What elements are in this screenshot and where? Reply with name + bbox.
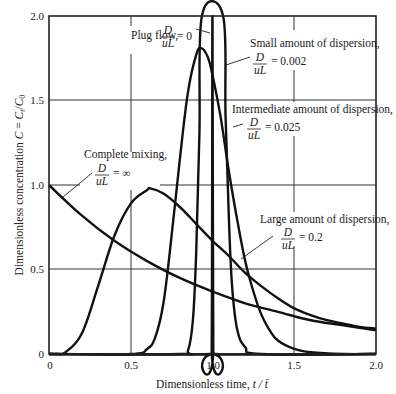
x-tick: 1.5 — [287, 359, 301, 371]
svg-text:Small amount of dispersion,: Small amount of dispersion, — [250, 37, 380, 50]
y-tick: 1.5 — [30, 94, 44, 106]
x-tick: 1.0 — [206, 359, 220, 371]
svg-text:Intermediate amount of dispers: Intermediate amount of dispersion, — [232, 103, 393, 116]
svg-text:uL: uL — [96, 175, 108, 187]
svg-text:D: D — [249, 116, 259, 128]
svg-text:uL: uL — [282, 239, 294, 251]
x-axis: 0 0.5 1.0 1.5 2.0 Dimensionless time, t … — [47, 359, 383, 391]
svg-text:= 0.2: = 0.2 — [299, 231, 323, 243]
dispersion-chart: 0 0.5 1.0 1.5 2.0 Dimensionless concentr… — [0, 0, 396, 394]
x-tick: 0.5 — [124, 359, 138, 371]
x-axis-title: Dimensionless time, t / t̄ — [156, 378, 269, 391]
x-tick: 2.0 — [369, 359, 383, 371]
svg-text:D: D — [255, 51, 265, 63]
svg-text:D: D — [283, 226, 293, 238]
svg-text:Complete mixing,: Complete mixing, — [84, 148, 167, 161]
svg-text:uL: uL — [162, 37, 174, 49]
svg-text:D: D — [163, 24, 173, 36]
y-axis: 0 0.5 1.0 1.5 2.0 Dimensionless concentr… — [13, 10, 45, 360]
svg-text:uL: uL — [248, 129, 260, 141]
y-tick: 1.0 — [30, 179, 44, 191]
svg-text:Large amount of dispersion,: Large amount of dispersion, — [260, 213, 390, 226]
x-tick: 0 — [47, 359, 53, 371]
svg-text:= 0: = 0 — [177, 30, 192, 42]
svg-text:D: D — [97, 162, 107, 174]
svg-text:= 0.025: = 0.025 — [265, 121, 300, 133]
svg-text:= ∞: = ∞ — [113, 167, 131, 179]
svg-text:uL: uL — [254, 64, 266, 76]
y-tick: 0 — [39, 348, 45, 360]
svg-text:= 0.002: = 0.002 — [271, 55, 306, 67]
y-axis-title: Dimensionless concentration C = Ct/C0 — [13, 95, 27, 276]
y-tick: 2.0 — [30, 10, 44, 22]
y-tick: 0.5 — [30, 263, 44, 275]
